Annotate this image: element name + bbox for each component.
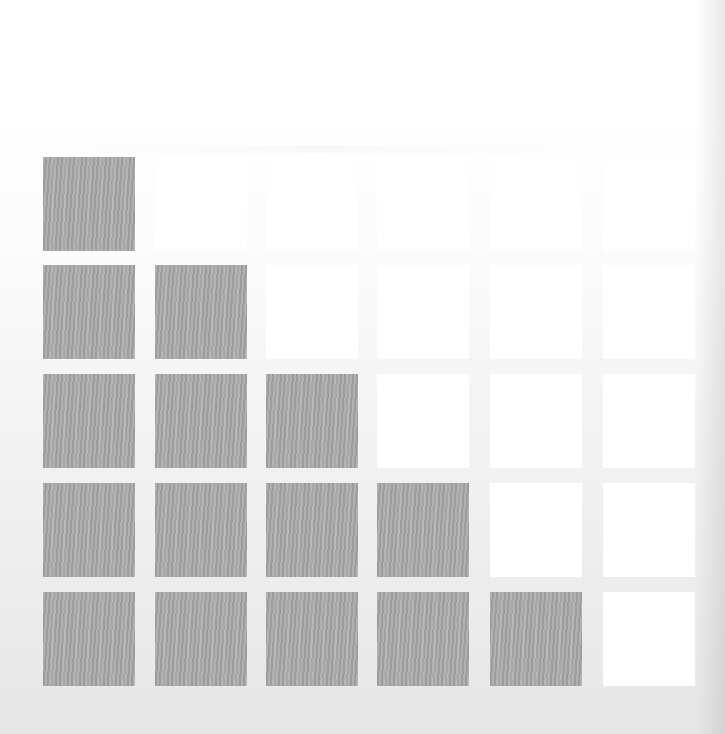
empty-cell-r1-c3 [266,157,358,251]
empty-cell-r2-c5 [490,265,582,359]
filled-cell-r3-c3 [266,374,358,468]
filled-cell-r1-c1 [43,157,135,251]
filled-cell-r2-c1 [43,265,135,359]
empty-cell-r3-c6 [603,374,695,468]
filled-cell-r3-c1 [43,374,135,468]
filled-cell-r4-c4 [377,483,469,577]
empty-cell-r4-c5 [490,483,582,577]
filled-cell-r5-c3 [266,592,358,686]
filled-cell-r4-c1 [43,483,135,577]
empty-cell-r5-c6 [603,592,695,686]
filled-cell-r5-c2 [155,592,247,686]
empty-cell-r1-c4 [377,157,469,251]
empty-cell-r1-c6 [603,157,695,251]
empty-cell-r3-c5 [490,374,582,468]
filled-cell-r2-c2 [155,265,247,359]
empty-cell-r3-c4 [377,374,469,468]
empty-cell-r1-c2 [155,157,247,251]
empty-cell-r4-c6 [603,483,695,577]
filled-cell-r4-c2 [155,483,247,577]
empty-cell-r1-c5 [490,157,582,251]
staircase-grid [0,0,725,734]
filled-cell-r3-c2 [155,374,247,468]
empty-cell-r2-c4 [377,265,469,359]
filled-cell-r5-c1 [43,592,135,686]
filled-cell-r5-c4 [377,592,469,686]
filled-cell-r5-c5 [490,592,582,686]
empty-cell-r2-c6 [603,265,695,359]
empty-cell-r2-c3 [266,265,358,359]
filled-cell-r4-c3 [266,483,358,577]
